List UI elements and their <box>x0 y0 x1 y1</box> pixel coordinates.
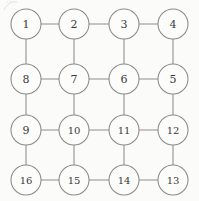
node-label: 8 <box>23 73 30 86</box>
node-label: 10 <box>68 125 81 136</box>
graph-node[interactable]: 1 <box>11 9 41 39</box>
graph-node[interactable]: 5 <box>158 64 188 94</box>
graph-canvas: 12348765910111216151413 <box>0 0 199 201</box>
node-label: 15 <box>68 175 81 186</box>
graph-node[interactable]: 15 <box>59 165 89 195</box>
graph-node[interactable]: 13 <box>158 165 188 195</box>
node-label: 14 <box>118 175 131 186</box>
graph-node[interactable]: 2 <box>59 9 89 39</box>
graph-node[interactable]: 7 <box>59 64 89 94</box>
node-label: 3 <box>121 18 128 31</box>
node-label: 16 <box>20 175 33 186</box>
graph-node[interactable]: 14 <box>109 165 139 195</box>
graph-node[interactable]: 9 <box>11 115 41 145</box>
node-label: 2 <box>71 18 78 31</box>
graph-node[interactable]: 12 <box>158 115 188 145</box>
graph-node[interactable]: 8 <box>11 64 41 94</box>
graph-node[interactable]: 11 <box>109 115 139 145</box>
node-label: 12 <box>167 125 180 136</box>
graph-node[interactable]: 16 <box>11 165 41 195</box>
node-label: 7 <box>71 73 78 86</box>
node-label: 1 <box>23 18 30 31</box>
graph-node[interactable]: 10 <box>59 115 89 145</box>
node-label: 5 <box>170 73 177 86</box>
node-label: 4 <box>170 18 177 31</box>
graph-node[interactable]: 4 <box>158 9 188 39</box>
nodes-layer: 12348765910111216151413 <box>11 9 188 195</box>
edges-layer <box>26 24 173 180</box>
graph-node[interactable]: 3 <box>109 9 139 39</box>
node-label: 13 <box>167 175 180 186</box>
graph-node[interactable]: 6 <box>109 64 139 94</box>
node-label: 6 <box>121 73 128 86</box>
node-label: 9 <box>23 124 30 137</box>
graph-figure: 12348765910111216151413 <box>0 0 199 201</box>
node-label: 11 <box>118 125 131 136</box>
